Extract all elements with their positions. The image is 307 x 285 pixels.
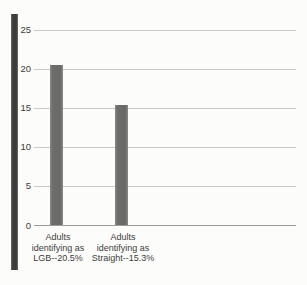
y-tick-label: 15: [13, 102, 31, 113]
y-tick-label: 25: [13, 24, 31, 35]
category-label-line: Straight--15.3%: [81, 253, 165, 264]
bar: [50, 65, 63, 225]
y-tick-label: 5: [13, 180, 31, 191]
y-tick-label: 0: [13, 220, 31, 231]
gridline: [34, 69, 296, 70]
gridline: [34, 186, 296, 187]
y-tick-label: 10: [13, 141, 31, 152]
category-label: Adultsidentifying asStraight--15.3%: [81, 232, 165, 264]
category-label-line: identifying as: [81, 243, 165, 254]
y-tick-label: 20: [13, 63, 31, 74]
bar-chart: 0510152025Adultsidentifying asLGB--20.5%…: [0, 0, 307, 285]
gridline: [34, 30, 296, 31]
gridline: [34, 147, 296, 148]
gridline: [34, 108, 296, 109]
x-axis-baseline: [34, 225, 296, 226]
bar: [115, 105, 128, 225]
category-label-line: Adults: [81, 232, 165, 243]
scanned-bar-chart-page: 0510152025Adultsidentifying asLGB--20.5%…: [0, 0, 307, 285]
